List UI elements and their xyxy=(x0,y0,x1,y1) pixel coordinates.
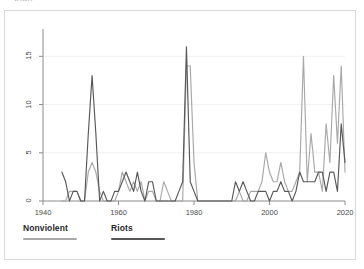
x-tick-label-1960: 1960 xyxy=(110,208,127,217)
clipped-title-text: than xyxy=(14,0,33,3)
axis-ticks xyxy=(39,56,345,205)
y-tick-label-5: 5 xyxy=(24,145,33,159)
x-tick-label-2020: 2020 xyxy=(337,208,354,217)
screenshot-root: than 051015 19401960198020002020 Nonviol… xyxy=(0,0,364,269)
chart-area: 051015 19401960198020002020 Nonviolent R… xyxy=(5,11,357,261)
x-tick-label-1980: 1980 xyxy=(186,208,203,217)
y-tick-label-15: 15 xyxy=(24,49,33,63)
legend-swatch-nonviolent xyxy=(23,238,77,240)
x-tick-label-1940: 1940 xyxy=(35,208,52,217)
legend-swatch-riots xyxy=(111,238,165,240)
legend-item-nonviolent[interactable]: Nonviolent xyxy=(23,223,77,240)
legend-label-nonviolent: Nonviolent xyxy=(23,223,68,233)
y-tick-label-10: 10 xyxy=(24,97,33,111)
chart-card: 051015 19401960198020002020 Nonviolent R… xyxy=(4,10,356,260)
y-tick-label-0: 0 xyxy=(24,194,33,208)
x-tick-label-2000: 2000 xyxy=(261,208,278,217)
legend-item-riots[interactable]: Riots xyxy=(111,223,165,240)
chart-legend: Nonviolent Riots xyxy=(23,223,165,240)
legend-label-riots: Riots xyxy=(111,223,133,233)
